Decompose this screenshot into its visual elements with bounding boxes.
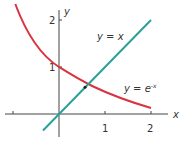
curve-label: y = e-x: [123, 82, 157, 94]
x-axis-label: x: [172, 109, 179, 120]
curve-label-exponent: -x: [151, 82, 157, 89]
y-axis-label: y: [63, 6, 71, 17]
line-label: y = x: [96, 31, 124, 42]
y-tick-label-2: 2: [49, 15, 55, 26]
chart: 1 2 1 2 x y y = x y = e-x: [0, 0, 185, 143]
x-tick-label-2: 2: [147, 123, 153, 134]
x-tick-label-1: 1: [102, 123, 108, 134]
curve-label-base: y = e: [123, 83, 151, 94]
intersection-point: [84, 86, 87, 89]
